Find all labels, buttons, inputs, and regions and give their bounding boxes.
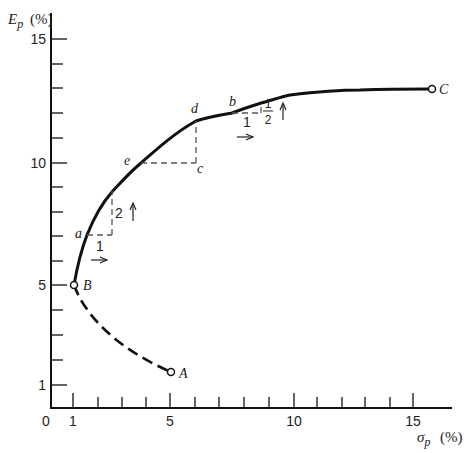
up-arrow-icon	[130, 203, 136, 221]
axes	[50, 13, 452, 409]
y-axis-title-unit: (%)	[30, 11, 53, 28]
triangle-a-run-label: 1	[96, 238, 104, 254]
right-arrow-icon	[91, 257, 107, 263]
y-axis-title-sub: p	[16, 17, 23, 31]
x-tick-label-10: 10	[286, 413, 302, 429]
x-tick-label-1: 1	[69, 413, 77, 429]
point-label-c: c	[197, 161, 204, 176]
risk-return-chart: 15 10 5 1 0 1 5 10 15 Ep (%) σp (%) 1 2	[0, 0, 466, 453]
x-axis-title-unit: (%)	[440, 429, 463, 446]
point-label-b: b	[229, 94, 236, 109]
x-ticks	[73, 393, 413, 408]
point-C-marker	[429, 86, 436, 93]
triangle-a-rise-label: 2	[115, 205, 123, 221]
svg-text:σp: σp	[417, 429, 430, 449]
y-axis-title: Ep (%)	[7, 11, 53, 31]
triangle-b-rise-numerator: 1	[265, 97, 272, 111]
y-axis-title-main: E	[7, 11, 17, 27]
y-tick-label-10: 10	[30, 155, 46, 171]
point-label-A: A	[178, 366, 188, 381]
right-arrow-icon	[237, 134, 253, 140]
x-tick-label-5: 5	[166, 413, 174, 429]
triangle-b-rise-denominator: 2	[265, 113, 272, 127]
point-B-marker	[71, 282, 78, 289]
y-ticks	[51, 39, 67, 385]
efficient-frontier-curve	[74, 89, 429, 285]
triangle-b-run-label: 1	[243, 114, 251, 130]
x-axis-title-sub: p	[423, 435, 430, 449]
y-tick-label-5: 5	[38, 277, 46, 293]
point-label-e: e	[124, 153, 130, 168]
point-label-a: a	[75, 226, 82, 241]
point-label-B: B	[83, 278, 92, 293]
y-tick-label-1: 1	[38, 377, 46, 393]
y-tick-label-15: 15	[30, 31, 46, 47]
svg-text:Ep: Ep	[7, 11, 23, 31]
inefficient-curve-dashed	[74, 285, 171, 372]
x-axis-title: σp (%)	[417, 429, 463, 449]
x-tick-label-15: 15	[405, 413, 421, 429]
up-arrow-icon	[280, 103, 286, 120]
point-label-d: d	[191, 101, 199, 116]
point-A-marker	[168, 369, 175, 376]
x-tick-label-0: 0	[42, 413, 50, 429]
point-label-C: C	[439, 82, 449, 97]
